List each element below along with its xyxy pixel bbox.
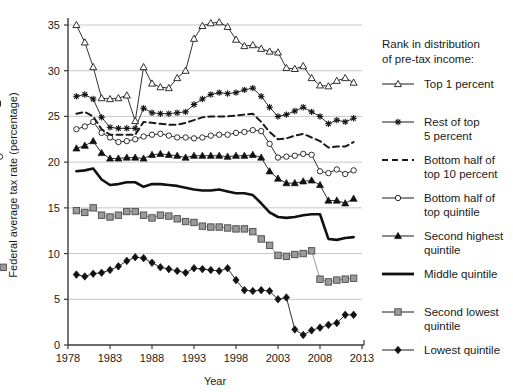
data-point-marker	[258, 93, 264, 99]
data-point-marker	[317, 113, 323, 119]
data-point-marker	[283, 111, 289, 117]
data-point-marker	[259, 128, 264, 133]
data-point-marker	[140, 105, 146, 111]
data-point-marker	[208, 91, 214, 97]
x-tick-label-1978: 1978	[56, 352, 80, 364]
data-point-marker	[275, 155, 280, 160]
data-point-marker	[133, 137, 138, 142]
data-point-marker	[98, 212, 104, 218]
y-tick-label-10: 10	[48, 248, 60, 260]
data-point-marker	[149, 215, 155, 221]
data-point-marker	[250, 85, 256, 91]
data-point-marker	[191, 101, 197, 107]
data-point-marker	[107, 214, 113, 220]
data-point-marker	[334, 277, 340, 283]
x-tick-label-1983: 1983	[98, 352, 122, 364]
data-point-marker	[74, 127, 79, 132]
data-point-marker	[208, 133, 213, 138]
legend-symbol-marker	[395, 309, 401, 315]
data-point-marker	[182, 109, 188, 115]
data-point-marker	[342, 119, 348, 125]
data-point-marker	[82, 124, 87, 129]
data-point-marker	[0, 264, 6, 270]
data-point-marker	[250, 127, 255, 132]
data-point-marker	[284, 154, 289, 159]
data-point-marker	[250, 228, 256, 234]
data-point-marker	[233, 226, 239, 232]
data-point-marker	[351, 168, 356, 173]
y-tick-label-0: 0	[54, 339, 60, 351]
data-point-marker	[342, 276, 348, 282]
data-point-marker	[224, 225, 230, 231]
legend-symbol-marker	[395, 195, 400, 200]
y-tick-label-35: 35	[48, 19, 60, 31]
legend-label-line1: Bottom half of	[424, 192, 496, 204]
data-point-marker	[283, 253, 289, 259]
legend-label-line2: quintile	[424, 320, 460, 332]
data-point-marker	[115, 125, 121, 131]
data-point-marker	[258, 236, 264, 242]
data-point-marker	[124, 138, 129, 143]
data-point-marker	[182, 218, 188, 224]
data-point-marker	[241, 87, 247, 93]
legend-label-line1: Top 1 percent	[424, 78, 494, 90]
y-tick-label-25: 25	[48, 110, 60, 122]
legend-symbol-marker	[395, 119, 401, 125]
x-tick-label-2003: 2003	[266, 352, 290, 364]
data-point-marker	[224, 90, 230, 96]
data-point-marker	[73, 93, 79, 99]
data-point-marker	[166, 213, 172, 219]
data-point-marker	[266, 104, 272, 110]
x-tick-label-2013: 2013	[350, 352, 374, 364]
data-point-marker	[309, 152, 314, 157]
data-point-marker	[217, 132, 222, 137]
data-point-marker	[82, 91, 88, 97]
data-point-marker	[124, 208, 130, 214]
data-point-marker	[166, 110, 172, 116]
legend-label-line2: top 10 percent	[424, 168, 498, 180]
data-point-marker	[191, 219, 197, 225]
y-tick-label-15: 15	[48, 202, 60, 214]
data-point-marker	[174, 110, 180, 116]
chart-container: 05101520253035 1978198319881993199820032…	[0, 0, 513, 392]
legend-title-line1: Rank in distribution	[382, 38, 480, 50]
legend-label-line2: 5 percent	[424, 130, 473, 142]
legend-label-line1: Middle quintile	[424, 268, 498, 280]
data-point-marker	[116, 139, 121, 144]
data-point-marker	[300, 104, 306, 110]
y-axis-title: Federal average tax rate (percentage)	[7, 92, 19, 277]
legend-label-line1: Lowest quintile	[424, 344, 500, 356]
data-point-marker	[157, 212, 163, 218]
data-point-marker	[292, 108, 298, 114]
y-tick-label-20: 20	[48, 156, 60, 168]
data-point-marker	[317, 169, 322, 174]
data-point-marker	[82, 209, 88, 215]
legend-label-line1: Second highest	[424, 230, 504, 242]
data-point-marker	[266, 242, 272, 248]
data-point-marker	[308, 109, 314, 115]
data-point-marker	[183, 135, 188, 140]
data-point-marker	[158, 131, 163, 136]
y-tick-label-5: 5	[54, 293, 60, 305]
data-point-marker	[326, 170, 331, 175]
data-point-marker	[275, 252, 281, 258]
data-point-marker	[98, 114, 104, 120]
x-tick-label-1993: 1993	[182, 352, 206, 364]
data-point-marker	[241, 226, 247, 232]
data-point-marker	[200, 135, 205, 140]
data-point-marker	[90, 205, 96, 211]
data-point-marker	[140, 212, 146, 218]
data-point-marker	[166, 133, 171, 138]
data-point-marker	[132, 125, 138, 131]
data-point-marker	[325, 279, 331, 285]
data-point-marker	[275, 113, 281, 119]
data-point-marker	[157, 110, 163, 116]
data-point-marker	[216, 89, 222, 95]
data-point-marker	[149, 110, 155, 116]
data-point-marker	[216, 224, 222, 230]
data-point-marker	[350, 115, 356, 121]
x-tick-label-2008: 2008	[308, 352, 332, 364]
data-point-marker	[334, 167, 339, 172]
data-point-marker	[350, 275, 356, 281]
data-point-marker	[208, 224, 214, 230]
